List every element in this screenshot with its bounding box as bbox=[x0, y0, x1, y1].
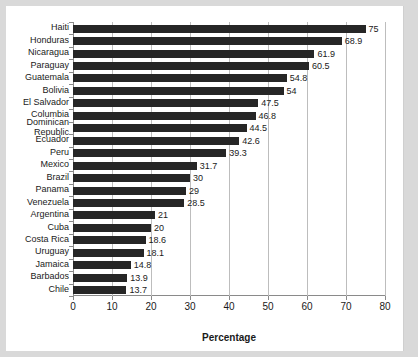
category-label: Argentina bbox=[30, 210, 69, 220]
bar-row: 47.5 bbox=[73, 97, 385, 110]
y-tick bbox=[69, 209, 73, 210]
bar-value-label: 60.5 bbox=[312, 60, 330, 72]
y-tick bbox=[69, 184, 73, 185]
category-axis-labels: HaitiHondurasNicaraguaParaguayGuatemalaB… bbox=[6, 22, 69, 296]
bar-value-label: 75 bbox=[369, 23, 379, 35]
y-tick bbox=[69, 196, 73, 197]
bar-row: 44.5 bbox=[73, 122, 385, 135]
y-tick bbox=[69, 134, 73, 135]
bar-value-label: 44.5 bbox=[250, 122, 268, 134]
bar bbox=[73, 249, 144, 257]
x-tick-label: 40 bbox=[223, 301, 234, 312]
bar bbox=[73, 124, 247, 132]
bar-chart: HaitiHondurasNicaraguaParaguayGuatemalaB… bbox=[6, 6, 404, 351]
y-tick bbox=[69, 109, 73, 110]
category-label: Peru bbox=[50, 148, 69, 158]
bar bbox=[73, 87, 284, 95]
x-tick-label: 70 bbox=[340, 301, 351, 312]
bar-row: 29 bbox=[73, 184, 385, 197]
category-label: Haiti bbox=[51, 23, 69, 33]
y-tick bbox=[69, 171, 73, 172]
bar-value-label: 46.8 bbox=[259, 110, 277, 122]
bar-value-label: 68.9 bbox=[345, 35, 363, 47]
chart-page-card: HaitiHondurasNicaraguaParaguayGuatemalaB… bbox=[6, 6, 404, 351]
y-tick bbox=[69, 284, 73, 285]
bar bbox=[73, 211, 155, 219]
bar-value-label: 29 bbox=[189, 185, 199, 197]
bar-row: 18.1 bbox=[73, 246, 385, 259]
category-label: Honduras bbox=[30, 36, 69, 46]
bar-value-label: 13.7 bbox=[129, 284, 147, 296]
bar bbox=[73, 50, 314, 58]
category-label: Costa Rica bbox=[25, 235, 69, 245]
bar-row: 14.8 bbox=[73, 259, 385, 272]
bar-value-label: 20 bbox=[154, 222, 164, 234]
bar-row: 28.5 bbox=[73, 196, 385, 209]
y-tick bbox=[69, 59, 73, 60]
bar-value-label: 30 bbox=[193, 172, 203, 184]
plot-area: 7568.961.960.554.85447.546.844.542.639.3… bbox=[73, 22, 385, 296]
y-tick bbox=[69, 84, 73, 85]
x-tick bbox=[307, 296, 308, 300]
category-label: El Salvador bbox=[23, 98, 69, 108]
x-tick bbox=[151, 296, 152, 300]
y-tick bbox=[69, 221, 73, 222]
bar-value-label: 54.8 bbox=[290, 72, 308, 84]
x-tick bbox=[385, 296, 386, 300]
bar-row: 18.6 bbox=[73, 234, 385, 247]
x-axis-ticks: 01020304050607080 bbox=[73, 296, 385, 320]
y-tick bbox=[69, 271, 73, 272]
bar-row: 61.9 bbox=[73, 47, 385, 60]
bar-row: 75 bbox=[73, 22, 385, 35]
bar-row: 21 bbox=[73, 209, 385, 222]
bar bbox=[73, 274, 127, 282]
x-tick-label: 30 bbox=[184, 301, 195, 312]
category-label: Paraguay bbox=[30, 61, 69, 71]
bar bbox=[73, 25, 366, 33]
y-tick bbox=[69, 234, 73, 235]
category-label: Ecuador bbox=[35, 135, 69, 145]
category-label: Nicaragua bbox=[28, 48, 69, 58]
category-label: Guatemala bbox=[25, 73, 69, 83]
bar bbox=[73, 261, 131, 269]
bar-row: 39.3 bbox=[73, 147, 385, 160]
bar bbox=[73, 137, 239, 145]
y-tick bbox=[69, 72, 73, 73]
category-label: Venezuela bbox=[27, 198, 69, 208]
x-tick bbox=[190, 296, 191, 300]
bar-value-label: 31.7 bbox=[200, 160, 218, 172]
bar-value-label: 13.9 bbox=[130, 272, 148, 284]
bar bbox=[73, 62, 309, 70]
x-tick-label: 20 bbox=[145, 301, 156, 312]
bar-value-label: 14.8 bbox=[134, 259, 152, 271]
bar-row: 20 bbox=[73, 221, 385, 234]
bar-value-label: 54 bbox=[287, 85, 297, 97]
x-tick-label: 0 bbox=[70, 301, 76, 312]
category-label: Panama bbox=[35, 185, 69, 195]
y-tick bbox=[69, 22, 73, 23]
bar-row: 42.6 bbox=[73, 134, 385, 147]
bar-row: 46.8 bbox=[73, 109, 385, 122]
category-label: Cuba bbox=[47, 223, 69, 233]
bar-row: 31.7 bbox=[73, 159, 385, 172]
x-tick bbox=[112, 296, 113, 300]
y-tick bbox=[69, 246, 73, 247]
bar bbox=[73, 174, 190, 182]
bar bbox=[73, 74, 287, 82]
category-label: Barbados bbox=[30, 272, 69, 282]
bar bbox=[73, 286, 126, 294]
bar bbox=[73, 236, 146, 244]
bar bbox=[73, 112, 256, 120]
bar-value-label: 42.6 bbox=[242, 135, 260, 147]
bar bbox=[73, 199, 184, 207]
category-label: Chile bbox=[48, 285, 69, 295]
bar bbox=[73, 37, 342, 45]
y-tick bbox=[69, 122, 73, 123]
x-tick bbox=[268, 296, 269, 300]
bar-value-label: 18.6 bbox=[149, 234, 167, 246]
category-label: Uruguay bbox=[35, 247, 69, 257]
bar-row: 30 bbox=[73, 171, 385, 184]
bar bbox=[73, 99, 258, 107]
bar bbox=[73, 187, 186, 195]
bar-value-label: 21 bbox=[158, 209, 168, 221]
